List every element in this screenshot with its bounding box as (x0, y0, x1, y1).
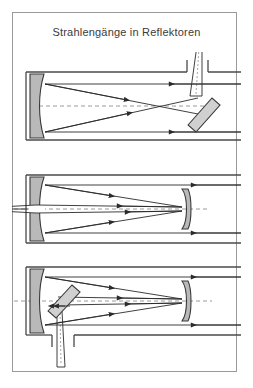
concave-primary-mirror (30, 269, 44, 333)
converging-ray (45, 222, 112, 233)
converging-ray (45, 277, 112, 288)
returning-ray (120, 298, 182, 299)
diagram-page: Strahlengänge in Reflektoren (0, 0, 253, 388)
flat-diagonal-mirror (188, 98, 220, 132)
exit-beam-cone (57, 311, 65, 367)
page-title: Strahlengänge in Reflektoren (0, 26, 253, 38)
returning-ray (120, 206, 182, 207)
converging-ray (45, 84, 127, 100)
converging-ray (45, 113, 130, 132)
figure-newton-reflector (12, 52, 241, 152)
concave-primary-mirror-with-hole (29, 177, 45, 241)
flat-diagonal-mirror (48, 285, 80, 318)
converging-ray (45, 185, 112, 196)
figure-cassegrain-reflector (12, 163, 241, 251)
exit-beam-cone (190, 52, 202, 96)
figure-nasmyth-reflector (12, 255, 241, 375)
